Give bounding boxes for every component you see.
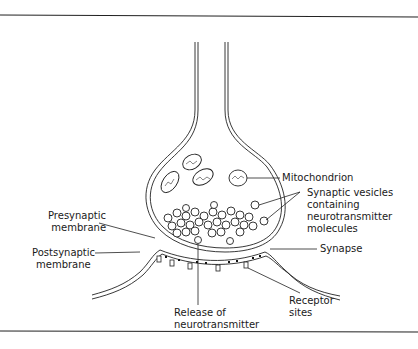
label-vesicles: Synaptic vesicles containing neurotransm… <box>307 187 393 235</box>
synaptic-vesicles <box>164 201 268 245</box>
label-postsynaptic: Postsynaptic membrane <box>32 247 95 271</box>
mitochondria <box>157 151 247 196</box>
label-synapse: Synapse <box>320 243 362 255</box>
label-receptor: Receptor sites <box>289 295 334 319</box>
top-rule <box>0 15 418 17</box>
label-release: Release of neurotransmitter <box>174 307 259 331</box>
label-presynaptic: Presynaptic membrane <box>48 210 106 234</box>
synapse-diagram <box>0 0 418 349</box>
label-mitochondrion: Mitochondrion <box>282 172 353 184</box>
bottom-rule <box>0 331 418 332</box>
postsynaptic-membrane <box>92 250 340 300</box>
